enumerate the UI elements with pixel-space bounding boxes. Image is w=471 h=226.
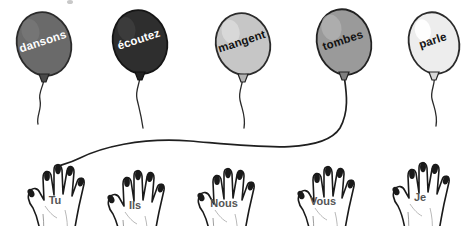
balloon-strings-group <box>38 75 437 128</box>
speck-icon <box>67 0 73 4</box>
hand-label-je: Je <box>414 191 426 203</box>
hand-label-tu: Tu <box>49 194 62 206</box>
balloon-knot-icon <box>429 72 439 80</box>
hand-nous[interactable]: Nous <box>196 168 255 226</box>
balloon-ecoutez[interactable]: écoutez <box>106 4 174 80</box>
hand-label-vous: Vous <box>310 195 336 207</box>
balloon-dansons[interactable]: dansons <box>10 6 78 82</box>
balloon-knot-icon <box>339 72 349 80</box>
balloon-string-parle <box>432 75 437 126</box>
hand-label-nous: Nous <box>210 197 238 209</box>
balloon-string-mangent <box>240 76 245 128</box>
stray-speck-group <box>67 0 73 4</box>
balloon-string-dansons <box>38 78 44 124</box>
hand-label-ils: Ils <box>129 199 141 211</box>
hand-ils[interactable]: Ils <box>106 170 165 226</box>
worksheet-scene: dansons écoutez mangent <box>0 0 471 226</box>
balloon-knot-icon <box>39 74 49 82</box>
hand-vous[interactable]: Vous <box>296 166 355 226</box>
balloon-string-ecoutez <box>137 76 143 128</box>
balloon-mangent[interactable]: mangent <box>209 7 276 82</box>
connector-string-tombes-to-tu <box>56 75 347 167</box>
hand-tu[interactable]: Tu <box>26 164 85 226</box>
balloon-parle[interactable]: parle <box>403 7 466 80</box>
scene-canvas: dansons écoutez mangent <box>0 0 471 226</box>
balloon-knot-icon <box>238 74 248 82</box>
hand-je[interactable]: Je <box>391 162 450 226</box>
balloon-tombes[interactable]: tombes <box>310 4 377 80</box>
balloon-knot-icon <box>135 72 145 80</box>
